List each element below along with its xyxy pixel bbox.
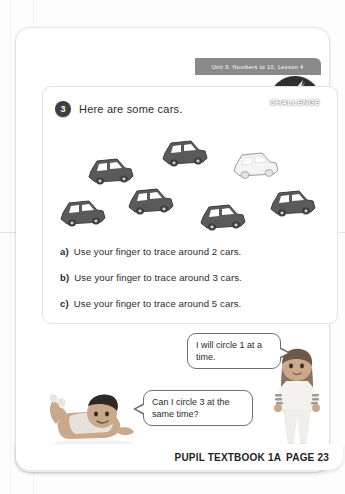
boy-character — [40, 380, 144, 452]
task-label-c: c) — [60, 298, 69, 309]
task-text-a: Use your finger to trace around 2 cars. — [74, 246, 242, 257]
unit-banner: Unit 3: Numbers to 10, Lesson 4 — [195, 58, 321, 75]
car-icon-4 — [55, 195, 111, 229]
footer-page-label: PAGE 23 — [286, 452, 329, 463]
task-text-b: Use your finger to trace around 3 cars. — [74, 272, 242, 283]
task-label-a: a) — [60, 246, 69, 257]
car-icon-1 — [83, 153, 139, 187]
car-icon-5 — [123, 183, 179, 217]
question-number: 3 — [55, 101, 71, 117]
car-icon-6 — [195, 199, 251, 233]
task-text-c: Use your finger to trace around 5 cars. — [74, 298, 242, 309]
footer-bar: PUPIL TEXTBOOK 1APAGE 23 — [16, 444, 343, 470]
footer-textbook-info: PUPIL TEXTBOOK 1APAGE 23 — [175, 452, 329, 463]
task-item-a: a) Use your finger to trace around 2 car… — [60, 246, 320, 257]
scan-crease-vertical-left — [10, 0, 11, 494]
speech-bubble-girl: I will circle 1 at a time. — [187, 333, 281, 369]
girl-character — [268, 346, 326, 458]
car-icon-2 — [157, 135, 213, 169]
car-icon-3 — [228, 147, 284, 181]
task-label-b: b) — [60, 272, 69, 283]
textbook-page: Unit 3: Numbers to 10, Lesson 4 CHALLENG… — [16, 28, 329, 472]
speech-bubble-boy: Can I circle 3 at the same time? — [143, 390, 253, 426]
speech-bubble-boy-text: Can I circle 3 at the same time? — [152, 397, 230, 419]
footer-textbook-label: PUPIL TEXTBOOK 1A — [175, 452, 282, 463]
challenge-label: CHALLENGE — [270, 98, 320, 107]
task-list: a) Use your finger to trace around 2 car… — [60, 246, 320, 324]
unit-banner-label: Unit 3: Numbers to 10, Lesson 4 — [212, 63, 304, 69]
screenshot-root: Unit 3: Numbers to 10, Lesson 4 CHALLENG… — [0, 0, 345, 494]
car-icon-7 — [265, 185, 321, 219]
task-item-c: c) Use your finger to trace around 5 car… — [60, 298, 320, 309]
question-prompt: Here are some cars. — [79, 103, 182, 115]
question-heading: 3 Here are some cars. — [55, 101, 182, 117]
car-illustration-group — [43, 129, 337, 247]
speech-bubble-girl-text: I will circle 1 at a time. — [196, 340, 262, 362]
task-item-b: b) Use your finger to trace around 3 car… — [60, 272, 320, 283]
